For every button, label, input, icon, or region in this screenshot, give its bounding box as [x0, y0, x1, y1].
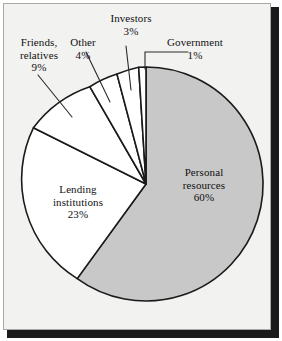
pie-label-lending-institutions-line2: institutions: [53, 196, 103, 208]
pie-chart-figure: Personal resources 60% Lending instituti…: [0, 0, 282, 341]
pie-label-lending-institutions-percent: 23%: [26, 208, 130, 221]
pie-label-personal-resources-line2: resources: [183, 179, 225, 191]
pie-label-government-line1: Government: [167, 36, 223, 48]
pie-label-personal-resources-percent: 60%: [163, 191, 245, 204]
pie-label-lending-institutions: Lending institutions 23%: [26, 183, 130, 221]
pie-label-lending-institutions-line1: Lending: [59, 183, 96, 195]
pie-label-personal-resources-line1: Personal: [185, 166, 224, 178]
pie-label-other-line1: Other: [70, 36, 96, 48]
pie-label-personal-resources: Personal resources 60%: [163, 166, 245, 204]
pie-label-friends-relatives-line2: relatives: [20, 49, 58, 61]
pie-label-other-percent: 4%: [62, 49, 104, 62]
pie-label-government: Government 1%: [152, 36, 238, 61]
pie-label-other: Other 4%: [62, 36, 104, 61]
pie-label-investors-line1: Investors: [110, 12, 151, 24]
pie-label-friends-relatives-percent: 9%: [8, 61, 70, 74]
pie-label-investors: Investors 3%: [98, 12, 164, 37]
pie-label-friends-relatives: Friends, relatives 9%: [8, 36, 70, 74]
pie-label-government-percent: 1%: [152, 49, 238, 62]
pie-label-friends-relatives-line1: Friends,: [21, 36, 58, 48]
